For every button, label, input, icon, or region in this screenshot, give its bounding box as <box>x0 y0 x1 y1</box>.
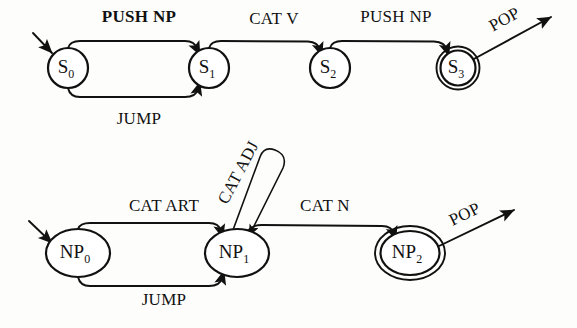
state-node-s0[interactable]: S0 <box>48 48 88 88</box>
state-node-s3-final[interactable]: S3 <box>437 47 480 90</box>
arc-label-cat-art: CAT ART <box>129 196 200 215</box>
state-node-s2[interactable]: S2 <box>310 48 350 88</box>
state-label-s2-base: S <box>320 56 331 77</box>
arc-np1-np2-catn <box>248 225 396 240</box>
state-node-np2-final[interactable]: NP2 <box>375 226 445 280</box>
arc-s0-s1-jump <box>68 82 200 97</box>
np-network: NP0 NP1 NP2 CAT ART JUMP CAT ADJ CAT N <box>29 138 514 309</box>
state-label-s3-sub: 3 <box>458 67 464 81</box>
sentence-network: S0 S1 S2 S3 <box>33 3 551 128</box>
state-label-np2-base: NP <box>392 241 416 262</box>
state-label-np2-sub: 2 <box>416 252 422 266</box>
arc-s1-s2-catv <box>209 41 322 56</box>
atn-diagram-canvas: S0 S1 S2 S3 <box>0 0 577 328</box>
start-arrow-np0 <box>29 221 52 243</box>
arc-s0-s1-push <box>68 41 200 55</box>
arc-label-push-np-2: PUSH NP <box>360 7 432 26</box>
state-label-np1-sub: 1 <box>243 252 249 266</box>
state-label-np0-base: NP <box>60 241 84 262</box>
arc-label-jump-s: JUMP <box>117 109 162 128</box>
atn-diagram-svg: S0 S1 S2 S3 <box>0 0 577 328</box>
arc-label-pop-np2: POP <box>446 198 483 229</box>
arc-label-push-np-1: PUSH NP <box>102 7 176 26</box>
state-label-s1-base: S <box>199 56 210 77</box>
state-label-np0-sub: 0 <box>84 252 90 266</box>
arc-np0-np1-jump <box>78 271 224 286</box>
arc-label-jump-np: JUMP <box>142 290 187 309</box>
state-label-s3-base: S <box>448 56 459 77</box>
arc-label-cat-n: CAT N <box>300 196 350 215</box>
state-node-s1[interactable]: S1 <box>189 48 229 88</box>
state-node-np1[interactable]: NP1 <box>205 229 269 277</box>
arc-label-pop-s3: POP <box>486 3 523 35</box>
arc-label-cat-v: CAT V <box>249 9 299 28</box>
state-label-s0-sub: 0 <box>68 67 74 81</box>
state-label-s1-sub: 1 <box>209 67 215 81</box>
arc-s2-s3-push <box>330 41 449 56</box>
state-label-np1-base: NP <box>219 241 243 262</box>
state-label-s0-base: S <box>58 56 69 77</box>
state-node-np0[interactable]: NP0 <box>46 229 110 277</box>
state-label-s2-sub: 2 <box>330 67 336 81</box>
arc-label-cat-adj: CAT ADJ <box>214 138 263 207</box>
start-arrow-s0 <box>33 33 52 53</box>
